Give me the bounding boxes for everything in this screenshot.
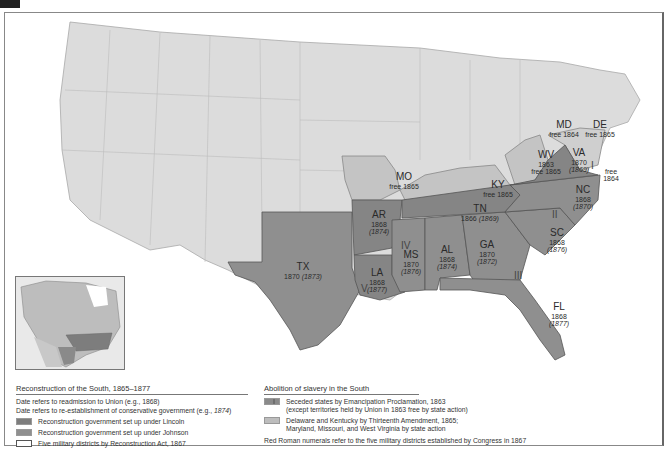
label-mo: MO free 1865 (382, 172, 426, 190)
legend-item-johnson: Reconstruction government set up under J… (16, 429, 248, 437)
us-map (0, 0, 668, 450)
legend-roman-numerals-note: Red Roman numerals refer to the five mil… (264, 437, 644, 446)
district-iii: III (514, 270, 522, 281)
label-tx: TX 1870 (1873) (276, 262, 330, 280)
swatch-border-states (264, 417, 280, 424)
legend-readmission-note: Date refers to readmission to Union (e.g… (16, 398, 248, 407)
inset-map-graphic (16, 277, 124, 369)
label-ga: GA 1870 (1872) (470, 240, 504, 265)
district-iv: IV (401, 240, 410, 251)
legend-item-emancipation: Seceded states by Emancipation Proclamat… (264, 398, 644, 414)
inset-north-america-map (15, 276, 125, 370)
swatch-johnson (16, 429, 32, 436)
label-ms: MS 1870 (1876) (396, 250, 426, 275)
label-fl: FL 1868 (1877) (544, 302, 574, 327)
label-de: DE free 1865 (580, 120, 620, 138)
legend-abolition-title: Abolition of slavery in the South (264, 384, 419, 395)
legend-reconstruction-title: Reconstruction of the South, 1865–1877 (16, 384, 248, 395)
legend-item-lincoln: Reconstruction government set up under L… (16, 418, 248, 426)
label-md-coast: free 1864 (598, 168, 624, 183)
legend-abolition: Abolition of slavery in the South Secede… (264, 384, 644, 446)
label-ky: KY free 1865 (476, 180, 520, 198)
district-ii: II (552, 209, 558, 220)
label-al: AL 1868 (1874) (430, 245, 464, 270)
swatch-seceded (264, 398, 280, 405)
legend-conservative-note: Date refers to re-establishment of conse… (16, 407, 248, 416)
swatch-lincoln (16, 418, 32, 425)
label-ar: AR 1868 (1874) (362, 210, 396, 235)
label-wv: WV 1863 free 1865 (526, 150, 566, 175)
district-v: V (361, 283, 368, 294)
label-nc: NC 1868 (1870) (566, 185, 600, 210)
legend-item-military-districts: Five military districts by Reconstructio… (16, 440, 248, 448)
swatch-military-districts (16, 440, 32, 447)
label-sc: SC 1868 (1876) (540, 228, 574, 253)
legend-reconstruction: Reconstruction of the South, 1865–1877 D… (16, 384, 248, 448)
district-i: I (591, 160, 594, 171)
legend-item-thirteenth-amendment: Delaware and Kentucky by Thirteenth Amen… (264, 417, 644, 433)
label-tn: TN 1866 (1869) (450, 204, 510, 222)
